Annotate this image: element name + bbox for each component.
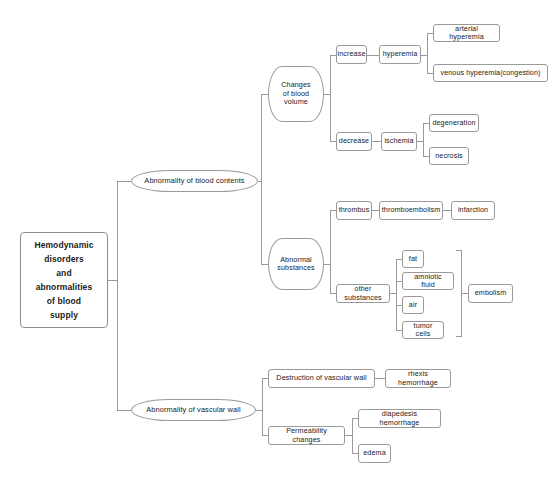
node-changes-of-blood-volume[interactable]: Changes of blood volume bbox=[268, 66, 324, 122]
node-arterial-hyperemia[interactable]: arterial hyperemia bbox=[433, 24, 500, 42]
root-line-6: supply bbox=[34, 308, 93, 322]
node-root[interactable]: Hemodynamic disorders and abnormalities … bbox=[20, 232, 108, 328]
root-line-5: of blood bbox=[34, 294, 93, 308]
node-ischemia[interactable]: ischemia bbox=[381, 132, 417, 151]
node-abnormal-substances[interactable]: Abnormal substances bbox=[268, 238, 324, 290]
node-destruction-of-vascular-wall[interactable]: Destruction of vascular wall bbox=[268, 369, 375, 388]
node-abnormality-vascular-wall-label: Abnormality of vascular wall bbox=[140, 406, 246, 415]
node-degeneration[interactable]: degeneration bbox=[429, 114, 479, 132]
node-decrease[interactable]: decrease bbox=[336, 132, 372, 151]
node-abnormality-vascular-wall[interactable]: Abnormality of vascular wall bbox=[131, 399, 256, 421]
node-root-label: Hemodynamic disorders and abnormalities … bbox=[34, 238, 93, 322]
node-thrombus[interactable]: thrombus bbox=[336, 201, 372, 220]
root-line-4: abnormalities bbox=[34, 280, 93, 294]
node-abnormality-blood-contents-label: Abnormality of blood contents bbox=[138, 177, 250, 186]
node-permeability-changes[interactable]: Permeability changes bbox=[268, 426, 345, 445]
node-abnormal-substances-label: Abnormal substances bbox=[275, 256, 316, 273]
embolus-group-bracket bbox=[456, 250, 462, 337]
node-hyperemia[interactable]: hyperemia bbox=[379, 45, 421, 64]
node-edema[interactable]: edema bbox=[358, 444, 391, 463]
node-thromboembolism[interactable]: thromboembolism bbox=[379, 201, 443, 220]
node-diapedesis-hemorrhage[interactable]: diapedesis hemorrhage bbox=[358, 409, 441, 428]
node-necrosis[interactable]: necrosis bbox=[429, 147, 469, 165]
root-line-2: disorders bbox=[34, 252, 93, 266]
root-line-3: and bbox=[34, 266, 93, 280]
abs-line-2: substances bbox=[277, 264, 314, 272]
node-venous-hyperemia[interactable]: venous hyperemia(congestion) bbox=[433, 64, 548, 82]
node-amniotic-fluid[interactable]: amniotic fluid bbox=[402, 272, 454, 290]
node-fat[interactable]: fat bbox=[402, 250, 424, 268]
node-tumor-cells[interactable]: tumor cells bbox=[402, 321, 444, 339]
node-changes-of-blood-volume-label: Changes of blood volume bbox=[279, 81, 312, 106]
node-increase[interactable]: increase bbox=[336, 45, 367, 64]
cbv-line-3: volume bbox=[281, 98, 310, 106]
root-line-1: Hemodynamic bbox=[34, 238, 93, 252]
node-rhexis-hemorrhage[interactable]: rhexis hemorrhage bbox=[385, 369, 451, 388]
node-air[interactable]: air bbox=[402, 296, 424, 314]
node-infarction[interactable]: infarction bbox=[451, 201, 495, 220]
mindmap-canvas: Hemodynamic disorders and abnormalities … bbox=[0, 0, 553, 481]
node-abnormality-blood-contents[interactable]: Abnormality of blood contents bbox=[131, 170, 258, 192]
node-other-substances[interactable]: other substances bbox=[336, 284, 390, 303]
node-embolism[interactable]: embolism bbox=[468, 284, 513, 303]
